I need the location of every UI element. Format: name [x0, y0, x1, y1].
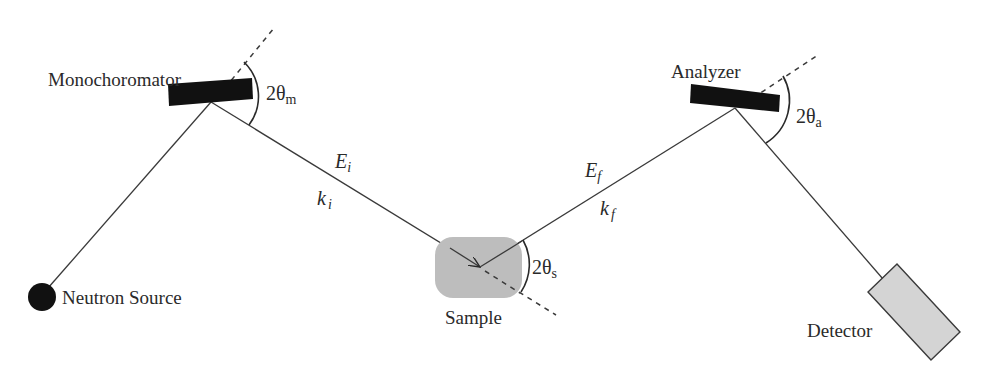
monochromator: 2θm Monochoromator: [48, 62, 297, 125]
sample-angle-arc: [521, 240, 529, 292]
analyzer-extension-line: [753, 55, 818, 98]
beam-incident: [211, 102, 480, 267]
sample-block: [435, 237, 522, 298]
spectrometer-diagram: 2θs Sample 2θm Monochoromator 2θa Analyz…: [0, 0, 985, 376]
analyzer-angle-label: 2θa: [796, 105, 823, 130]
analyzer-label: Analyzer: [671, 61, 741, 82]
final-energy-label: Ef: [584, 159, 603, 184]
monochromator-label: Monochoromator: [48, 69, 182, 90]
analyzer: 2θa Analyzer: [671, 61, 823, 143]
neutron-source-label: Neutron Source: [62, 287, 182, 308]
detector: Detector: [807, 264, 960, 360]
sample-angle-label: 2θs: [532, 256, 557, 281]
final-wavevector-label: kf: [600, 197, 617, 222]
neutron-source: Neutron Source: [28, 283, 182, 311]
beam-analyzer-to-detector: [735, 108, 883, 279]
sample: 2θs Sample: [435, 237, 557, 328]
detector-box: [868, 264, 960, 360]
incident-wavevector-label: ki: [317, 187, 332, 212]
neutron-source-dot: [28, 283, 56, 311]
analyzer-crystal: [690, 84, 780, 112]
detector-label: Detector: [807, 320, 873, 341]
incident-energy-label: Ei: [334, 150, 351, 175]
monochromator-angle-label: 2θm: [266, 82, 297, 107]
sample-label: Sample: [445, 307, 502, 328]
beam-source-to-monochromator: [48, 102, 211, 288]
